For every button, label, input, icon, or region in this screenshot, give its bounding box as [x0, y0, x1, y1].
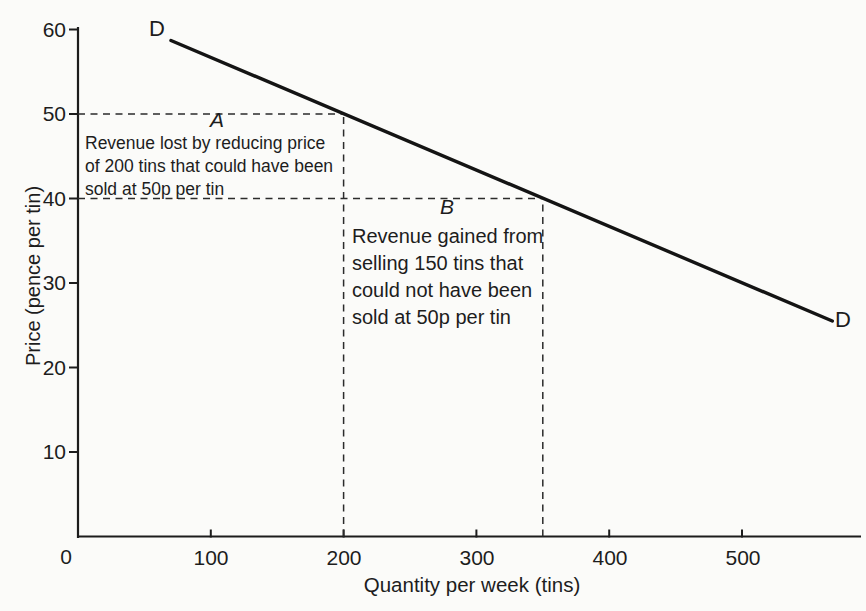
x-tick-label-500: 500 [713, 545, 773, 571]
region-b-label: B [440, 195, 454, 219]
region-b-text-line: selling 150 tins that [352, 250, 543, 277]
y-tick-label-50: 50 [14, 101, 66, 127]
region-a-text-line: of 200 tins that could have been [85, 155, 333, 178]
x-axis-title: Quantity per week (tins) [364, 573, 580, 597]
x-tick-label-400: 400 [580, 545, 640, 571]
region-a-label: A [210, 108, 224, 132]
region-b-text-line: could not have been [352, 277, 543, 304]
x-tick-label-100: 100 [181, 545, 241, 571]
region-a-text-line: sold at 50p per tin [85, 178, 333, 201]
y-axis-title: Price (pence per tin) [22, 186, 45, 366]
y-tick-label-60: 60 [14, 17, 66, 43]
origin-label: 0 [36, 544, 96, 570]
y-tick-label-10: 10 [14, 439, 66, 465]
region-a-annotation: Revenue lost by reducing price of 200 ti… [85, 132, 333, 201]
x-tick-label-200: 200 [314, 545, 374, 571]
demand-curve-label-left: D [149, 16, 165, 42]
x-tick-label-300: 300 [447, 545, 507, 571]
region-b-text-line: Revenue gained from [352, 223, 543, 250]
demand-curve-label-right: D [835, 307, 851, 333]
region-b-text-line: sold at 50p per tin [352, 304, 543, 331]
region-b-annotation: Revenue gained from selling 150 tins tha… [352, 223, 543, 331]
demand-curve-chart: 60 50 40 30 20 10 0 100 200 300 400 500 … [0, 0, 866, 611]
region-a-text-line: Revenue lost by reducing price [85, 132, 333, 155]
